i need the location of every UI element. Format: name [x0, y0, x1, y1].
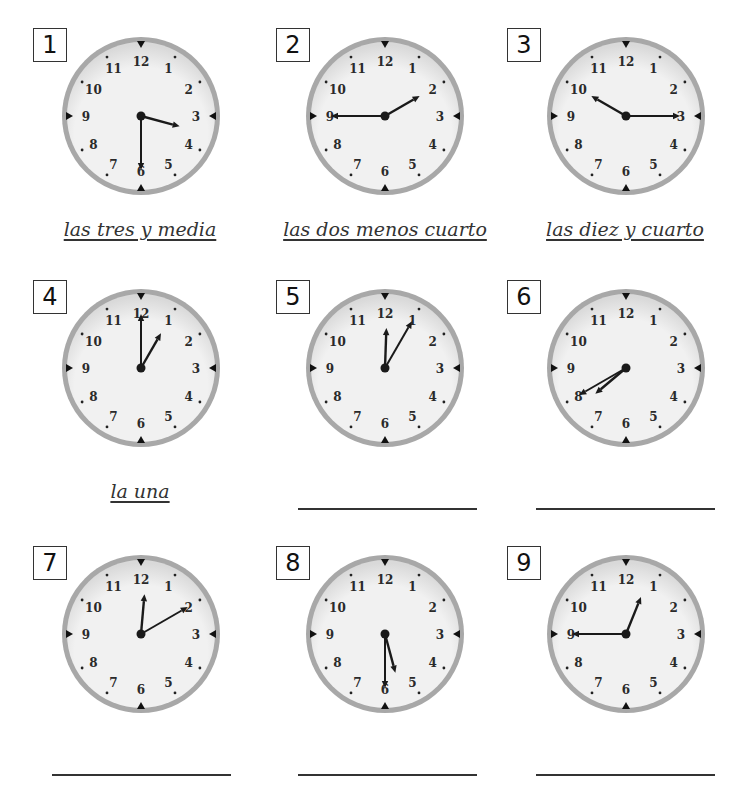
svg-text:7: 7	[594, 676, 602, 690]
exercise-number-box: 3	[507, 28, 541, 62]
svg-text:8: 8	[89, 390, 97, 404]
svg-text:8: 8	[574, 656, 582, 670]
clock-face-icon: 121234567891011	[59, 34, 223, 198]
answer-text: las tres y media	[20, 218, 260, 240]
svg-text:7: 7	[353, 158, 361, 172]
svg-text:8: 8	[89, 138, 97, 152]
svg-text:12: 12	[618, 573, 635, 587]
svg-text:12: 12	[618, 307, 635, 321]
svg-text:11: 11	[590, 314, 607, 328]
clock-exercise-3: 3 121234567891011 las diez y cuarto	[505, 20, 743, 280]
svg-text:1: 1	[649, 580, 657, 594]
answer-blank-line[interactable]	[52, 774, 231, 776]
answer-text: la una	[20, 480, 260, 502]
svg-text:1: 1	[164, 62, 172, 76]
svg-text:11: 11	[105, 314, 122, 328]
svg-text:2: 2	[428, 335, 436, 349]
svg-text:3: 3	[436, 362, 444, 376]
svg-text:5: 5	[408, 410, 416, 424]
svg-text:4: 4	[669, 138, 677, 152]
svg-text:11: 11	[105, 580, 122, 594]
svg-text:8: 8	[333, 138, 341, 152]
svg-text:7: 7	[353, 410, 361, 424]
svg-text:12: 12	[133, 55, 150, 69]
svg-text:7: 7	[109, 158, 117, 172]
svg-text:4: 4	[428, 656, 436, 670]
svg-text:9: 9	[326, 628, 334, 642]
svg-text:6: 6	[622, 165, 630, 179]
svg-text:10: 10	[570, 83, 587, 97]
svg-text:3: 3	[436, 110, 444, 124]
svg-text:8: 8	[574, 138, 582, 152]
svg-text:12: 12	[377, 55, 394, 69]
clock-face-icon: 121234567891011	[544, 286, 708, 450]
svg-text:8: 8	[574, 390, 582, 404]
answer-blank-line[interactable]	[298, 774, 477, 776]
answer-label: las diez y cuarto	[546, 218, 704, 240]
clock-exercise-5: 5 121234567891011	[265, 272, 505, 532]
clock-face-icon: 121234567891011	[59, 552, 223, 716]
svg-text:6: 6	[137, 417, 145, 431]
svg-text:6: 6	[381, 417, 389, 431]
svg-text:9: 9	[82, 362, 90, 376]
svg-text:4: 4	[184, 138, 192, 152]
clock-face-icon: 121234567891011	[544, 34, 708, 198]
clock-exercise-2: 2 121234567891011 las dos menos cuarto	[265, 20, 505, 280]
clock-exercise-7: 7 121234567891011	[20, 538, 260, 798]
clock-face-icon: 121234567891011	[303, 286, 467, 450]
svg-text:6: 6	[381, 165, 389, 179]
svg-text:4: 4	[184, 390, 192, 404]
answer-blank-line[interactable]	[298, 508, 477, 510]
answer-label: la una	[110, 480, 169, 502]
svg-text:1: 1	[164, 580, 172, 594]
svg-text:3: 3	[192, 628, 200, 642]
svg-text:2: 2	[669, 335, 677, 349]
clock-exercise-1: 1 121234567891011 las tres y media	[20, 20, 260, 280]
clock-exercise-8: 8 121234567891011	[265, 538, 505, 798]
svg-text:1: 1	[649, 62, 657, 76]
svg-text:5: 5	[408, 158, 416, 172]
svg-text:2: 2	[428, 601, 436, 615]
svg-text:9: 9	[567, 628, 575, 642]
svg-text:11: 11	[590, 580, 607, 594]
svg-text:10: 10	[329, 601, 346, 615]
svg-text:3: 3	[192, 110, 200, 124]
svg-text:4: 4	[184, 656, 192, 670]
answer-text: las diez y cuarto	[505, 218, 743, 240]
svg-text:1: 1	[408, 62, 416, 76]
answer-blank-line[interactable]	[536, 508, 715, 510]
svg-text:4: 4	[669, 656, 677, 670]
exercise-number-box: 6	[507, 280, 541, 314]
svg-text:6: 6	[137, 683, 145, 697]
svg-text:12: 12	[133, 573, 150, 587]
svg-text:12: 12	[377, 307, 394, 321]
svg-text:9: 9	[82, 628, 90, 642]
svg-text:3: 3	[192, 362, 200, 376]
svg-text:7: 7	[109, 410, 117, 424]
svg-text:6: 6	[622, 417, 630, 431]
svg-text:10: 10	[85, 335, 102, 349]
clock-face-icon: 121234567891011	[303, 34, 467, 198]
svg-text:1: 1	[408, 580, 416, 594]
svg-text:11: 11	[349, 580, 366, 594]
svg-text:7: 7	[109, 676, 117, 690]
clock-face-icon: 121234567891011	[544, 552, 708, 716]
svg-text:10: 10	[570, 601, 587, 615]
svg-text:5: 5	[408, 676, 416, 690]
answer-label: las dos menos cuarto	[283, 218, 487, 240]
svg-text:3: 3	[677, 110, 685, 124]
svg-text:3: 3	[436, 628, 444, 642]
svg-text:9: 9	[326, 362, 334, 376]
svg-text:4: 4	[669, 390, 677, 404]
svg-text:5: 5	[164, 158, 172, 172]
svg-text:5: 5	[649, 676, 657, 690]
svg-text:11: 11	[349, 62, 366, 76]
svg-text:10: 10	[329, 335, 346, 349]
svg-text:10: 10	[570, 335, 587, 349]
answer-blank-line[interactable]	[536, 774, 715, 776]
svg-text:9: 9	[567, 110, 575, 124]
svg-text:4: 4	[428, 138, 436, 152]
svg-text:11: 11	[105, 62, 122, 76]
svg-text:2: 2	[669, 601, 677, 615]
svg-text:3: 3	[677, 362, 685, 376]
